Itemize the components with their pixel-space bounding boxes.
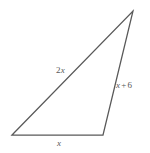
hypotenuse-variable: x xyxy=(61,65,65,75)
triangle-figure: 2x x+6 x xyxy=(0,0,150,153)
triangle-shape xyxy=(0,0,150,153)
base-variable: x xyxy=(57,138,61,148)
triangle-outline xyxy=(12,11,133,135)
side-label-base: x xyxy=(57,139,61,148)
right-side-constant: 6 xyxy=(127,80,132,90)
side-label-hypotenuse: 2x xyxy=(56,66,65,75)
side-label-right-side: x+6 xyxy=(116,81,132,90)
